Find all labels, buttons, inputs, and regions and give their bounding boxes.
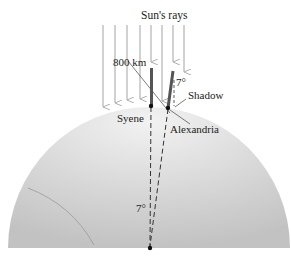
center-angle-label: 7° [136, 203, 146, 214]
shadow-angle-label: 7° [176, 77, 186, 88]
distance-label: 800 km [113, 57, 146, 68]
eratosthenes-diagram: Sun's rays 800 km 7° Shadow Syene Alexan… [0, 0, 291, 259]
alexandria-label: Alexandria [170, 124, 219, 135]
sun-rays-title: Sun's rays [141, 10, 187, 22]
alexandria-stick [168, 71, 173, 108]
alexandria-dot [166, 106, 170, 110]
syene-label: Syene [117, 113, 144, 124]
syene-dot [149, 104, 153, 108]
earth-hemisphere [8, 107, 290, 248]
syene-stick [150, 68, 153, 107]
shadow-label: Shadow [188, 90, 223, 101]
shadow-leader [175, 99, 186, 107]
diagram-graphic [0, 0, 291, 259]
center-dot [148, 246, 152, 250]
